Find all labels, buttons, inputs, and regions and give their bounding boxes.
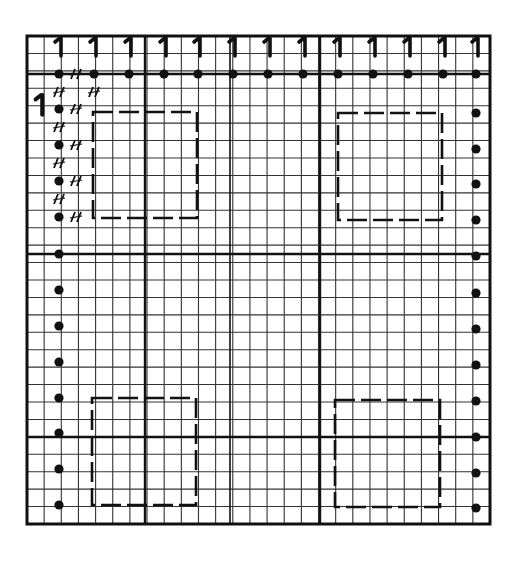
dot-icon [54, 500, 63, 509]
double-slash-icon [53, 194, 65, 204]
slash-crossbar [53, 126, 65, 128]
dot-icon [54, 140, 63, 149]
dot-icon [54, 69, 63, 78]
double-slash-icon [53, 158, 65, 168]
slash-crossbar [70, 108, 82, 110]
dot-icon [471, 179, 480, 188]
dot-icon [471, 324, 480, 333]
double-slash-icon [70, 212, 82, 222]
dot-icon [438, 69, 447, 78]
slash-crossbar [70, 216, 82, 218]
double-slash-icon [70, 140, 82, 150]
slash-crossbar [53, 162, 65, 164]
dot-icon [54, 357, 63, 366]
dot-icon [159, 69, 168, 78]
dot-icon [54, 428, 63, 437]
slash-crossbar [53, 91, 65, 93]
slash-crossbar [70, 180, 82, 182]
grid-lines [27, 36, 490, 524]
dot-icon [471, 251, 480, 260]
dot-icon [54, 176, 63, 185]
dot-icon [471, 432, 480, 441]
dot-icon [333, 69, 342, 78]
dot-icon [471, 503, 480, 512]
dot-icon [54, 212, 63, 221]
dot-icon [471, 108, 480, 117]
row-mark-one [36, 95, 43, 115]
dot-icon [228, 69, 237, 78]
dot-icon [193, 69, 202, 78]
slash-crossbar [88, 91, 100, 93]
dot-icon [124, 69, 133, 78]
slash-crossbar [53, 198, 65, 200]
dot-icon [54, 393, 63, 402]
numeral-one-stroke [36, 95, 43, 115]
dot-icon [471, 360, 480, 369]
dot-icon [471, 144, 480, 153]
dot-icon [54, 104, 63, 113]
dot-icon [54, 249, 63, 258]
dot-icon [471, 69, 480, 78]
dot-icon [54, 321, 63, 330]
knitting-chart [0, 0, 517, 571]
dot-icon [471, 396, 480, 405]
slash-crossbar [70, 144, 82, 146]
dot-icon [368, 69, 377, 78]
dashed-rectangle-top-right [338, 113, 442, 220]
dot-icon [89, 69, 98, 78]
dot-icon [263, 69, 272, 78]
dot-icon [298, 69, 307, 78]
dot-icon [471, 468, 480, 477]
dot-icon [403, 69, 412, 78]
dot-icon [471, 288, 480, 297]
double-slash-icon [70, 176, 82, 186]
dot-icon [54, 464, 63, 473]
dot-icon [471, 215, 480, 224]
dot-icon [54, 285, 63, 294]
